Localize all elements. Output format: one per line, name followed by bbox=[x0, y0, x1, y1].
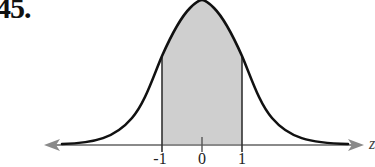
tick-label-0: 0 bbox=[198, 151, 206, 167]
tick-label-1: 1 bbox=[238, 151, 246, 167]
shaded-region bbox=[162, 0, 242, 145]
axis-variable-label: z bbox=[369, 135, 375, 153]
tick-label-neg1: -1 bbox=[153, 151, 166, 167]
